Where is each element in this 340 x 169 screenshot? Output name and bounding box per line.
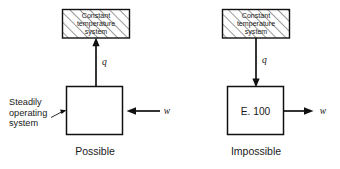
reservoir-label-line2: temperature	[77, 20, 115, 28]
panel-right: Constant temperature system q E. 100 w	[223, 10, 327, 158]
heat-flow-arrow-left: q	[92, 38, 107, 86]
reservoir-label-line1: Constant	[82, 12, 110, 20]
reservoir-box-right: Constant temperature system	[223, 10, 290, 39]
system-annotation-line2: operating	[9, 108, 47, 118]
heat-flow-arrowhead-up	[92, 38, 99, 47]
heat-flow-arrow-right: q	[252, 38, 267, 88]
system-box-right: E. 100	[228, 87, 284, 135]
work-flow-arrowhead-right	[304, 107, 314, 115]
work-flow-arrowhead-left	[127, 107, 137, 115]
diagram-canvas: Constant temperature system q Steadily o…	[0, 0, 340, 169]
system-rect	[67, 87, 123, 135]
system-box-left	[67, 87, 123, 135]
panel-left: Constant temperature system q Steadily o…	[9, 10, 171, 158]
reservoir-label-line3: system	[85, 28, 108, 36]
work-flow-symbol: w	[320, 105, 327, 116]
annotation-leader-line	[51, 112, 63, 118]
system-label: E. 100	[241, 106, 271, 117]
annotation-leader-arrowhead	[60, 110, 67, 115]
reservoir-box-left: Constant temperature system	[63, 10, 130, 39]
heat-flow-symbol: q	[102, 56, 107, 67]
panel-caption-left: Possible	[75, 145, 115, 157]
reservoir-label-line3: system	[245, 28, 268, 36]
system-annotation-line3: system	[9, 118, 38, 128]
work-flow-arrow-left: w	[127, 105, 171, 116]
heat-flow-symbol: q	[262, 54, 267, 65]
reservoir-label-line2: temperature	[237, 20, 275, 28]
work-flow-symbol: w	[164, 105, 171, 116]
panel-caption-right: Impossible	[231, 145, 281, 157]
work-flow-arrow-right: w	[284, 105, 327, 116]
system-annotation-left: Steadily operating system	[9, 97, 67, 128]
system-annotation-line1: Steadily	[9, 97, 42, 107]
thermodynamics-diagram: Constant temperature system q Steadily o…	[0, 0, 340, 169]
reservoir-label-line1: Constant	[242, 12, 270, 20]
